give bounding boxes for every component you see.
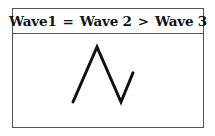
zigzag-diagram xyxy=(0,0,215,136)
zigzag-wave-line xyxy=(73,47,133,102)
